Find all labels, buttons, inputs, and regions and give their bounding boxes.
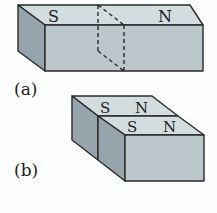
magnet-b-front-face: [125, 135, 204, 181]
pole-label-s-b-back: S: [100, 99, 110, 117]
caption-b: (b): [14, 160, 38, 180]
pole-label-s-a: S: [48, 7, 59, 26]
pole-label-s-b-front: S: [127, 118, 137, 136]
pole-label-n-b-front: N: [163, 118, 176, 136]
diagram-svg: S N (a) S N S N (b): [0, 0, 217, 213]
caption-a: (a): [14, 79, 37, 99]
magnet-diagram: S N (a) S N S N (b): [0, 0, 217, 213]
pole-label-n-a: N: [158, 7, 172, 26]
pole-label-n-b-back: N: [135, 99, 148, 117]
figure-a-bar-magnet: [18, 5, 203, 71]
